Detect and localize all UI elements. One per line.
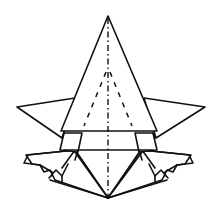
- origami-diagram: origami model, front view: [0, 0, 217, 217]
- main-triangle: [61, 16, 157, 131]
- right-wing: [144, 98, 205, 138]
- diagram-canvas: [0, 0, 217, 217]
